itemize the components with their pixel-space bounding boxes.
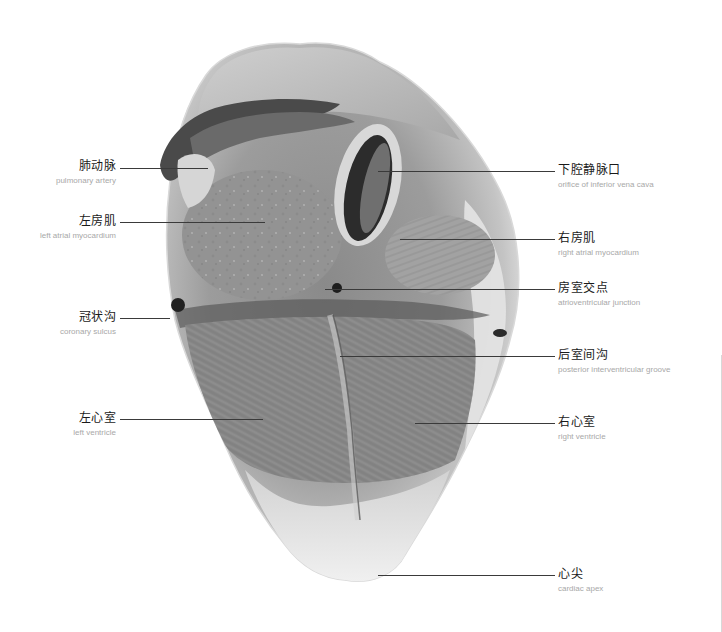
label-zh: 房室交点 [558, 282, 640, 294]
label-left-ventricle: 左心室 left ventricle [73, 412, 116, 437]
label-pulmonary-artery: 肺动脉 pulmonary artery [56, 160, 116, 185]
label-right-atrial-myocardium: 右房肌 right atrial myocardium [558, 232, 639, 257]
leader-line-right-ventricle [415, 423, 555, 424]
leader-line-pulmonary-artery [120, 168, 208, 169]
label-en: coronary sulcus [60, 328, 116, 336]
heart-anatomy-figure: 肺动脉 pulmonary artery 左房肌 left atrial myo… [0, 0, 722, 632]
leader-line-coronary-sulcus [120, 318, 170, 319]
leader-line-right-atrial-myocardium [400, 239, 555, 240]
label-cardiac-apex: 心尖 cardiac apex [558, 568, 603, 593]
label-en: left atrial myocardium [40, 232, 116, 240]
label-en: right ventricle [558, 433, 606, 441]
leader-line-left-ventricle [120, 419, 263, 420]
label-posterior-iv-groove: 后室间沟 posterior interventricular groove [558, 349, 671, 374]
label-en: orifice of inferior vena cava [558, 181, 654, 189]
label-en: pulmonary artery [56, 177, 116, 185]
label-ivc-orifice: 下腔静脉口 orifice of inferior vena cava [558, 164, 654, 189]
label-zh: 后室间沟 [558, 349, 671, 361]
label-en: left ventricle [73, 429, 116, 437]
label-zh: 肺动脉 [56, 160, 116, 172]
label-coronary-sulcus: 冠状沟 coronary sulcus [60, 311, 116, 336]
label-en: atrioventricular junction [558, 299, 640, 307]
label-en: posterior interventricular groove [558, 366, 671, 374]
leader-line-cardiac-apex [378, 575, 555, 576]
leader-line-left-atrial-myocardium [120, 222, 265, 223]
label-en: cardiac apex [558, 585, 603, 593]
label-zh: 右房肌 [558, 232, 639, 244]
label-av-junction: 房室交点 atrioventricular junction [558, 282, 640, 307]
leader-line-ivc-orifice [378, 171, 555, 172]
label-left-atrial-myocardium: 左房肌 left atrial myocardium [40, 215, 116, 240]
label-right-ventricle: 右心室 right ventricle [558, 416, 606, 441]
leader-line-posterior-iv-groove [340, 356, 555, 357]
leader-line-av-junction [325, 289, 555, 290]
label-zh: 冠状沟 [60, 311, 116, 323]
label-zh: 左房肌 [40, 215, 116, 227]
label-zh: 心尖 [558, 568, 603, 580]
label-en: right atrial myocardium [558, 249, 639, 257]
label-zh: 右心室 [558, 416, 606, 428]
label-zh: 左心室 [73, 412, 116, 424]
label-zh: 下腔静脉口 [558, 164, 654, 176]
